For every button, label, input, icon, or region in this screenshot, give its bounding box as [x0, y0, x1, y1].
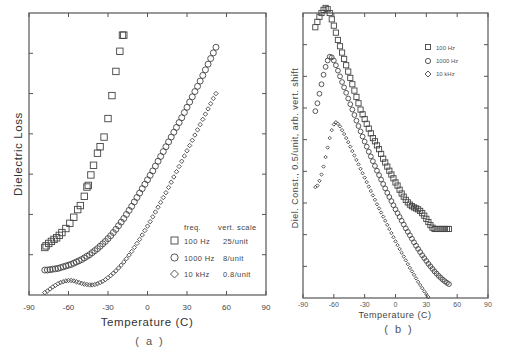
- panel-label-a: ( a ): [135, 335, 165, 347]
- circle-data-point: [352, 113, 357, 118]
- legend-header-scale: vert. scale: [218, 223, 257, 232]
- diamond-data-point: [400, 251, 403, 254]
- circle-data-point: [368, 154, 373, 159]
- diamond-data-point: [423, 290, 426, 293]
- x-tick-label: 30: [422, 301, 430, 308]
- circle-data-point: [366, 149, 371, 154]
- diamond-data-point: [211, 96, 215, 100]
- x-tick-label: -30: [360, 301, 370, 308]
- diamond-data-point: [324, 155, 327, 158]
- diamond-data-point: [132, 245, 136, 249]
- diamond-data-point: [416, 280, 419, 283]
- legend-label: 1000 Hz: [436, 58, 458, 64]
- legend-scale: 0.8/unit: [223, 270, 251, 279]
- square-data-point: [335, 37, 340, 42]
- circle-marker-icon: [425, 58, 430, 63]
- square-data-point: [426, 219, 431, 224]
- diamond-data-point: [384, 219, 387, 222]
- panel-b-frame: [303, 13, 488, 298]
- diamond-data-point: [351, 149, 354, 152]
- square-data-point: [323, 5, 328, 10]
- diamond-data-point: [187, 143, 191, 147]
- diamond-data-point: [190, 138, 194, 142]
- figure: -90 -60 -30 0 30 60 90 Temperature (C) D…: [0, 0, 505, 350]
- square-data-point: [117, 48, 123, 54]
- panel-a-ticks: [29, 13, 266, 295]
- diamond-data-point: [361, 172, 364, 175]
- square-data-point: [356, 101, 361, 106]
- diamond-data-point: [318, 179, 321, 182]
- diamond-data-point: [164, 190, 168, 194]
- square-data-point: [97, 144, 103, 150]
- diamond-data-point: [180, 159, 184, 163]
- diamond-data-point: [326, 146, 329, 149]
- diamond-data-point: [373, 198, 376, 201]
- x-tick-label: 90: [262, 303, 271, 312]
- x-tick-label: -90: [298, 301, 308, 308]
- square-data-point: [317, 14, 322, 19]
- diamond-data-point: [148, 219, 152, 223]
- circle-data-point: [373, 164, 378, 169]
- diamond-data-point: [412, 273, 415, 276]
- square-data-point: [337, 44, 342, 49]
- x-tick-label: -60: [329, 301, 339, 308]
- diamond-data-point: [143, 228, 147, 232]
- x-tick-label: -60: [63, 303, 75, 312]
- diamond-data-point: [174, 170, 178, 174]
- square-data-point: [81, 193, 87, 199]
- diamond-data-point: [379, 211, 382, 214]
- square-data-point: [105, 115, 111, 121]
- diamond-data-point: [198, 122, 202, 126]
- diamond-data-point: [371, 194, 374, 197]
- circle-data-point: [333, 63, 338, 68]
- circle-data-point: [362, 139, 367, 144]
- circle-data-point: [356, 124, 361, 129]
- diamond-data-point: [367, 185, 370, 188]
- diamond-data-point: [158, 200, 162, 204]
- circle-data-point: [323, 64, 328, 69]
- diamond-data-point: [369, 189, 372, 192]
- circle-data-point: [364, 144, 369, 149]
- square-data-point: [346, 69, 351, 74]
- diamond-data-point: [355, 158, 358, 161]
- x-axis-title: Temperature (C): [358, 310, 431, 320]
- circle-data-point: [321, 72, 326, 77]
- diamond-data-point: [390, 231, 393, 234]
- diamond-data-point: [353, 154, 356, 157]
- diamond-data-point: [342, 132, 345, 135]
- diamond-data-point: [156, 205, 160, 209]
- square-data-point: [342, 56, 347, 61]
- circle-data-point: [354, 118, 359, 123]
- diamond-data-point: [169, 180, 173, 184]
- circle-data-point: [131, 199, 137, 205]
- diamond-data-point: [172, 175, 176, 179]
- circle-data-point: [137, 190, 143, 196]
- circle-data-point: [319, 82, 324, 87]
- diamond-data-point: [414, 277, 417, 280]
- x-tick-label: 0: [145, 303, 150, 312]
- x-tick-label: 60: [453, 301, 461, 308]
- diamond-data-point: [137, 237, 141, 241]
- square-data-point: [113, 68, 119, 74]
- diamond-data-point: [404, 259, 407, 262]
- circle-data-point: [338, 74, 343, 79]
- x-tick-label: 60: [222, 303, 231, 312]
- circle-data-point: [350, 107, 355, 112]
- diamond-marker-icon: [171, 270, 179, 278]
- diamond-data-point: [193, 133, 197, 137]
- square-data-point: [424, 216, 429, 221]
- circle-data-point: [340, 80, 345, 85]
- diamond-data-point: [330, 128, 333, 131]
- diamond-data-point: [408, 266, 411, 269]
- circle-data-point: [315, 101, 320, 106]
- diamond-data-point: [328, 136, 331, 139]
- x-axis-title: Temperature (C): [101, 316, 194, 328]
- diamond-data-point: [130, 249, 134, 253]
- circle-data-point: [344, 90, 349, 95]
- diamond-data-point: [185, 149, 189, 153]
- panel-b-x-tick-labels: -90 -60 -30 0 30 60 90: [298, 301, 492, 308]
- diamond-data-point: [421, 286, 424, 289]
- square-data-point: [88, 172, 94, 178]
- diamond-data-point: [418, 283, 421, 286]
- legend-freq: 100 Hz: [184, 237, 210, 246]
